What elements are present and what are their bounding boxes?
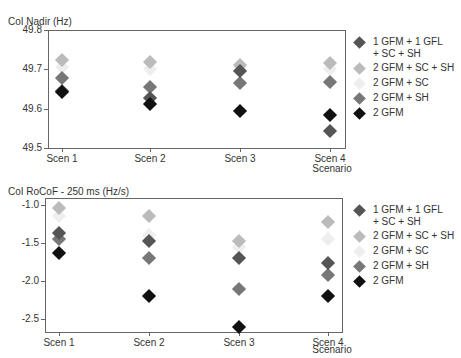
legend-item: 2 GFM + SC — [347, 76, 461, 91]
diamond-icon — [353, 92, 366, 105]
x-tick-mark — [149, 332, 150, 336]
legend-item: 2 GFM + SC — [347, 244, 461, 259]
y-tick-mark — [41, 243, 45, 244]
legend-label: 2 GFM + SC — [373, 245, 429, 257]
diamond-icon — [353, 77, 366, 90]
y-tick-label: -2.5 — [5, 313, 39, 324]
legend-label: 1 GFM + 1 GFL+ SC + SH — [373, 204, 443, 228]
x-tick-mark — [59, 332, 60, 336]
diamond-icon — [353, 62, 366, 75]
y-tick-mark — [41, 205, 45, 206]
diamond-icon — [353, 260, 366, 273]
legend-item: 2 GFM + SC + SH — [347, 61, 461, 76]
legend: 1 GFM + 1 GFL+ SC + SH2 GFM + SC + SH2 G… — [347, 35, 461, 121]
diamond-icon — [353, 230, 366, 243]
y-tick-label: -2.0 — [5, 275, 39, 286]
y-tick-mark — [41, 281, 45, 282]
plot-area — [45, 198, 343, 333]
legend-label: 2 GFM + SH — [373, 92, 429, 104]
legend: 1 GFM + 1 GFL+ SC + SH2 GFM + SC + SH2 G… — [347, 203, 461, 289]
y-tick-label: -1.0 — [5, 199, 39, 210]
legend-item: 1 GFM + 1 GFL+ SC + SH — [347, 35, 461, 61]
legend-label: 1 GFM + 1 GFL+ SC + SH — [373, 36, 443, 60]
legend-label: 2 GFM — [373, 107, 404, 119]
y-tick-mark — [41, 319, 45, 320]
legend-item: 1 GFM + 1 GFL+ SC + SH — [347, 203, 461, 229]
y-tick-label: -1.5 — [5, 237, 39, 248]
chart-title: CoI RoCoF - 250 ms (Hz/s) — [8, 186, 129, 197]
x-tick-label: Scen 3 — [209, 337, 269, 348]
legend-item: 2 GFM + SH — [347, 91, 461, 106]
legend-item: 2 GFM + SH — [347, 259, 461, 274]
x-tick-label: Scen 4 — [298, 337, 358, 348]
legend-item: 2 GFM — [347, 274, 461, 289]
diamond-icon — [353, 36, 366, 49]
legend-label: 2 GFM + SC + SH — [373, 62, 454, 74]
legend-item: 2 GFM + SC + SH — [347, 229, 461, 244]
x-tick-label: Scen 2 — [119, 337, 179, 348]
diamond-icon — [353, 275, 366, 288]
x-tick-mark — [328, 332, 329, 336]
diamond-icon — [353, 107, 366, 120]
legend-label: 2 GFM + SH — [373, 260, 429, 272]
legend-label: 2 GFM + SC — [373, 77, 429, 89]
diamond-icon — [353, 204, 366, 217]
x-tick-label: Scen 1 — [29, 337, 89, 348]
legend-label: 2 GFM — [373, 275, 404, 287]
legend-item: 2 GFM — [347, 106, 461, 121]
legend-label: 2 GFM + SC + SH — [373, 230, 454, 242]
diamond-icon — [353, 245, 366, 258]
